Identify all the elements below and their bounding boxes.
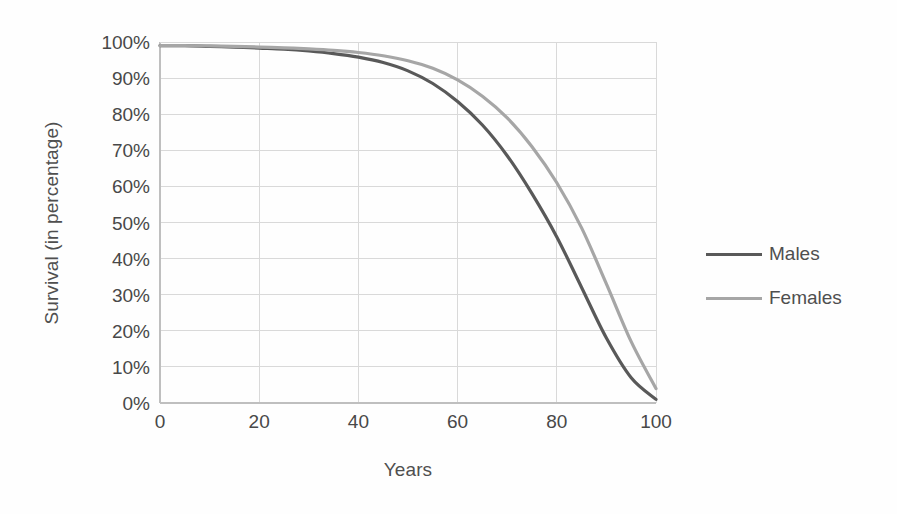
x-tick-label: 80 xyxy=(517,412,597,431)
plot-area xyxy=(160,42,656,403)
x-tick-label: 0 xyxy=(120,412,200,431)
legend-item-females[interactable]: Females xyxy=(706,276,886,320)
plot-svg xyxy=(160,42,656,403)
x-axis-title: Years xyxy=(160,459,656,481)
legend-line-swatch xyxy=(706,297,762,300)
gridlines xyxy=(160,42,656,403)
survival-curve-chart: Survival (in percentage) 0%10%20%30%40%5… xyxy=(0,0,897,514)
x-tick-label: 40 xyxy=(318,412,398,431)
x-tick-label: 60 xyxy=(418,412,498,431)
x-tick-label: 100 xyxy=(616,412,696,431)
legend-line-swatch xyxy=(706,253,762,256)
series-line-females xyxy=(160,46,656,389)
chart-legend: MalesFemales xyxy=(706,232,886,320)
legend-item-males[interactable]: Males xyxy=(706,232,886,276)
legend-item-label: Females xyxy=(769,287,842,309)
x-tick-label: 20 xyxy=(219,412,299,431)
legend-item-label: Males xyxy=(769,243,820,265)
